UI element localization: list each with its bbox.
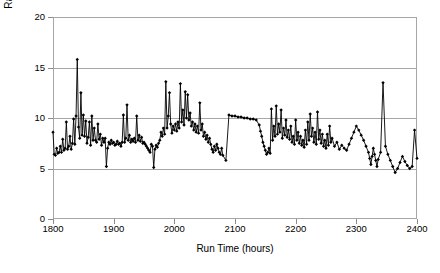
data-point-marker: [204, 138, 207, 141]
y-tick-label-5: 5: [0, 164, 45, 174]
data-point-marker: [198, 101, 201, 104]
data-point-marker: [100, 144, 103, 147]
data-point-marker: [184, 90, 187, 93]
data-point-marker: [220, 147, 223, 150]
data-point-marker: [252, 117, 255, 120]
data-point-marker: [164, 80, 167, 83]
x-tick-label-2000: 2000: [152, 224, 196, 234]
data-point-marker: [283, 133, 286, 136]
data-point-marker: [192, 128, 195, 131]
data-point-marker: [88, 120, 91, 123]
data-point-marker: [284, 118, 287, 121]
data-point-marker: [259, 129, 262, 132]
data-point-marker: [398, 161, 401, 164]
data-point-marker: [328, 124, 331, 127]
y-tick-label-0: 0: [0, 214, 45, 224]
data-point-marker: [248, 117, 251, 120]
y-tick-label-15: 15: [0, 63, 45, 73]
x-tick-label-1800: 1800: [31, 224, 75, 234]
data-point-marker: [180, 120, 183, 123]
data-point-marker: [119, 145, 122, 148]
data-point-marker: [379, 151, 382, 154]
data-point-marker: [171, 124, 174, 127]
data-point-marker: [170, 131, 173, 134]
data-point-marker: [312, 141, 315, 144]
data-point-marker: [264, 149, 267, 152]
data-point-marker: [93, 126, 96, 129]
data-point-marker: [177, 126, 180, 129]
data-point-marker: [326, 132, 329, 135]
data-point-marker: [329, 141, 332, 144]
data-point-marker: [82, 113, 85, 116]
data-point-marker: [273, 134, 276, 137]
data-point-marker: [260, 134, 263, 137]
data-point-marker: [61, 138, 64, 141]
data-point-marker: [72, 117, 75, 120]
data-point-marker: [327, 144, 330, 147]
y-tick-label-10: 10: [0, 113, 45, 123]
data-point-marker: [174, 122, 177, 125]
x-tick-label-1900: 1900: [92, 224, 136, 234]
data-point-marker: [193, 122, 196, 125]
data-point-marker: [214, 149, 217, 152]
data-point-marker: [199, 128, 202, 131]
data-point-marker: [306, 120, 309, 123]
data-point-marker: [242, 116, 245, 119]
data-point-marker: [391, 165, 394, 168]
data-point-marker: [202, 134, 205, 137]
data-point-marker: [352, 130, 355, 133]
data-point-marker: [209, 143, 212, 146]
x-tick-label-2300: 2300: [334, 224, 378, 234]
data-point-marker: [51, 130, 54, 133]
data-point-marker: [294, 118, 297, 121]
data-point-marker: [285, 135, 288, 138]
data-point-marker: [227, 113, 230, 116]
data-point-marker: [317, 138, 320, 141]
data-point-marker: [305, 143, 308, 146]
data-point-marker: [205, 133, 208, 136]
data-point-marker: [262, 145, 265, 148]
x-tick-label-2400: 2400: [395, 224, 439, 234]
plot-area: [53, 17, 417, 219]
data-point-marker: [65, 120, 68, 123]
data-point-marker: [127, 139, 130, 142]
data-point-marker: [359, 133, 362, 136]
data-point-marker: [367, 151, 370, 154]
data-point-marker: [401, 155, 404, 158]
data-point-marker: [276, 132, 279, 135]
data-point-marker: [207, 141, 210, 144]
data-point-marker: [60, 151, 63, 154]
data-point-marker: [281, 137, 284, 140]
data-point-marker: [319, 142, 322, 145]
data-point-marker: [316, 110, 319, 113]
data-point-marker: [310, 134, 313, 137]
data-point-marker: [298, 142, 301, 145]
data-point-marker: [169, 122, 172, 125]
data-point-marker: [368, 157, 371, 160]
data-point-marker: [350, 137, 353, 140]
data-point-marker: [140, 135, 143, 138]
data-point-marker: [389, 159, 392, 162]
data-point-marker: [79, 91, 82, 94]
data-point-marker: [103, 137, 106, 140]
data-point-marker: [213, 145, 216, 148]
data-point-marker: [179, 82, 182, 85]
data-point-marker: [152, 166, 155, 169]
turbidity-chart: Raw Water Turbidity (NTU) 05101520 18001…: [0, 0, 440, 273]
data-point-marker: [208, 137, 211, 140]
data-point-marker: [279, 108, 282, 111]
data-point-marker: [315, 143, 318, 146]
data-point-marker: [299, 134, 302, 137]
data-point-marker: [216, 147, 219, 150]
data-point-marker: [381, 81, 384, 84]
data-point-marker: [182, 123, 185, 126]
data-point-marker: [413, 128, 416, 131]
data-point-marker: [157, 142, 160, 145]
x-tick-label-2100: 2100: [213, 224, 257, 234]
data-point-marker: [85, 142, 88, 145]
data-series-turbidity: [53, 17, 417, 219]
data-point-marker: [110, 139, 113, 142]
data-point-marker: [123, 141, 126, 144]
data-point-marker: [125, 103, 128, 106]
data-point-marker: [55, 147, 58, 150]
